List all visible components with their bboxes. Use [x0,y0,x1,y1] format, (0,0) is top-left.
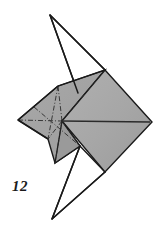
step-number-label: 12 [12,179,28,194]
origami-step-figure: 12 [0,0,167,234]
origami-illustration [0,0,167,234]
center-spine-line [62,121,150,122]
